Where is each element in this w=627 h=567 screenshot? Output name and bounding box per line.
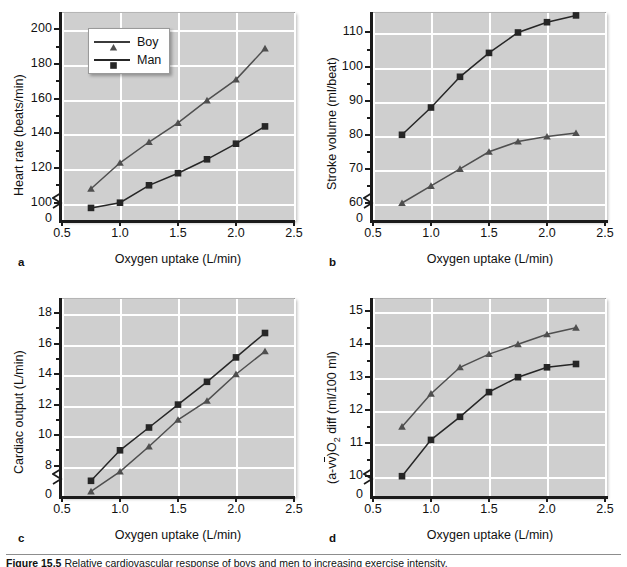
data-point-man <box>233 140 240 147</box>
caption-body: Relative cardiovascular response of boys… <box>64 557 447 567</box>
caption-divider <box>6 554 621 555</box>
caption-line: Figure 15.5 Relative cardiovascular resp… <box>6 557 448 567</box>
data-point-man <box>399 473 406 480</box>
series-line-man <box>91 126 265 207</box>
panel-b: Stroke volume (ml/beat) Oxygen uptake (L… <box>313 0 627 288</box>
series-layer <box>0 0 320 280</box>
data-point-man <box>175 170 182 177</box>
data-point-boy <box>572 324 580 331</box>
data-point-boy <box>456 165 464 172</box>
data-point-man <box>399 132 406 139</box>
data-point-man <box>544 364 551 371</box>
data-point-man <box>573 12 580 19</box>
data-point-man <box>204 379 211 386</box>
data-point-man <box>486 389 493 396</box>
series-line-boy <box>402 328 576 427</box>
data-point-man <box>117 447 124 454</box>
series-line-boy <box>91 48 265 188</box>
data-point-boy <box>261 45 269 52</box>
figure-caption: Figure 15.5 Relative cardiovascular resp… <box>0 552 627 567</box>
data-point-man <box>573 361 580 368</box>
data-point-man <box>117 199 124 206</box>
series-line-man <box>402 364 576 476</box>
data-point-man <box>457 74 464 81</box>
data-point-boy <box>427 182 435 189</box>
series-layer <box>313 288 627 567</box>
data-point-man <box>88 478 95 485</box>
data-point-man <box>544 19 551 26</box>
data-point-man <box>88 205 95 212</box>
data-point-man <box>175 401 182 408</box>
data-point-man <box>262 330 269 337</box>
data-point-man <box>515 29 522 36</box>
data-point-man <box>233 354 240 361</box>
data-point-boy <box>261 348 269 355</box>
data-point-man <box>146 424 153 431</box>
series-layer <box>0 288 320 567</box>
data-point-man <box>428 104 435 111</box>
series-layer <box>313 0 627 280</box>
caption-number: Figure 15.5 <box>6 557 61 567</box>
data-point-man <box>146 182 153 189</box>
panel-d: (a-vv)O2 diff (ml/100 ml) Oxygen uptake … <box>313 288 627 552</box>
data-point-man <box>515 374 522 381</box>
series-line-man <box>402 15 576 134</box>
data-point-man <box>486 50 493 57</box>
data-point-boy <box>398 199 406 206</box>
data-point-man <box>204 156 211 163</box>
panel-a: Heart rate (beats/min) Oxygen uptake (L/… <box>0 0 313 288</box>
figure-container: Heart rate (beats/min) Oxygen uptake (L/… <box>0 0 627 567</box>
data-point-boy <box>456 364 464 371</box>
series-line-boy <box>402 133 576 203</box>
data-point-man <box>262 123 269 130</box>
data-point-man <box>457 414 464 421</box>
panel-c: Cardiac output (L/min) Oxygen uptake (L/… <box>0 288 313 552</box>
data-point-man <box>428 437 435 444</box>
